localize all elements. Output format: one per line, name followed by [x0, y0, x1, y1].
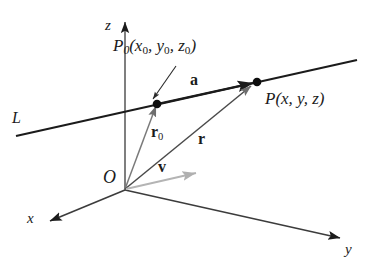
x-axis: [50, 190, 125, 221]
p-comma-1: ,: [289, 89, 298, 108]
vector-r-label: r: [198, 131, 205, 147]
p0-paren-close: ): [190, 36, 196, 55]
origin-label: O: [103, 168, 116, 186]
point-p-label: P(x, y, z): [265, 90, 325, 107]
point-p0-label: P0(x0, y0, z0): [113, 37, 196, 57]
y-axis: [125, 190, 340, 238]
line-l-label: L: [12, 110, 21, 126]
p-name: P: [265, 89, 275, 108]
vector-a: [157, 83, 253, 104]
p0-comma-1: ,: [148, 36, 157, 55]
p0-comma-2: ,: [170, 36, 179, 55]
vector-v-label: v: [158, 159, 166, 175]
vector-line-diagram: z x y L O P0(x0, y0, z0) P(x, y, z) a r0…: [0, 0, 376, 276]
z-axis-label: z: [105, 18, 111, 33]
y-axis-label: y: [345, 242, 352, 257]
p0-y: y: [157, 36, 165, 55]
vector-v: [126, 173, 196, 189]
p0-z: z: [178, 36, 185, 55]
point-p-marker: [253, 78, 262, 87]
p-paren-close: ): [319, 89, 325, 108]
vector-a-label: a: [190, 72, 198, 88]
p-z: z: [312, 89, 319, 108]
p-comma-2: ,: [304, 89, 313, 108]
p-y: y: [297, 89, 304, 108]
x-axis-label: x: [27, 211, 34, 226]
p0-leader-line: [153, 66, 176, 99]
p-x: x: [281, 89, 289, 108]
r0-subscript: 0: [158, 131, 163, 142]
vector-r0-label: r0: [151, 124, 163, 143]
p0-name: P: [113, 36, 123, 55]
point-p0-marker: [153, 100, 162, 109]
